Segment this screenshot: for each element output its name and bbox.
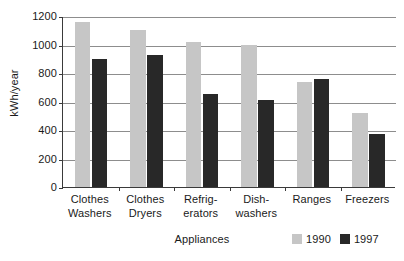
legend-swatch-icon xyxy=(292,234,302,244)
x-axis-tick xyxy=(341,187,342,191)
y-axis-tick-label: 1200 xyxy=(1,10,57,22)
category-label-line: Dish- xyxy=(229,193,285,207)
x-axis-tick xyxy=(174,187,175,191)
gridline xyxy=(63,17,396,18)
y-axis-tick xyxy=(59,46,63,47)
category-label-1: ClothesDryers xyxy=(118,193,174,220)
y-axis-tick-label: 0 xyxy=(1,181,57,193)
category-label-line: Clothes xyxy=(62,193,118,207)
y-axis-tick xyxy=(59,188,63,189)
legend-entry-1990: 1990 xyxy=(292,233,331,245)
gridline xyxy=(63,74,396,75)
y-axis-tick xyxy=(59,17,63,18)
legend-entry-1997: 1997 xyxy=(340,233,379,245)
gridline xyxy=(63,160,396,161)
x-axis-tick xyxy=(230,187,231,191)
y-axis-tick-label: 400 xyxy=(1,124,57,136)
legend-label: 1997 xyxy=(354,233,379,245)
y-axis-tick xyxy=(59,103,63,104)
category-label-line: Washers xyxy=(62,207,118,221)
y-axis-tick xyxy=(59,74,63,75)
bar-chart-figure: kWh/year 020040060080010001200 ClothesWa… xyxy=(0,0,404,261)
bar-1997-5 xyxy=(369,134,385,187)
legend-swatch-icon xyxy=(340,234,350,244)
bar-1990-3 xyxy=(241,45,257,187)
category-label-line: Clothes xyxy=(118,193,174,207)
gridline xyxy=(63,103,396,104)
bar-1990-4 xyxy=(297,82,313,187)
y-axis-tick-label: 600 xyxy=(1,96,57,108)
x-axis-tick xyxy=(285,187,286,191)
y-axis-tick-label: 200 xyxy=(1,153,57,165)
bar-1990-0 xyxy=(75,22,91,187)
bar-1990-2 xyxy=(186,42,202,187)
bar-1997-1 xyxy=(147,55,163,187)
bar-1997-0 xyxy=(92,59,108,187)
bar-1990-5 xyxy=(352,113,368,187)
y-axis-tick-label: 1000 xyxy=(1,39,57,51)
bar-1997-2 xyxy=(203,94,219,187)
category-label-0: ClothesWashers xyxy=(62,193,118,220)
gridline xyxy=(63,131,396,132)
x-axis-tick xyxy=(119,187,120,191)
category-label-4: Ranges xyxy=(284,193,340,207)
bar-1997-4 xyxy=(314,79,330,187)
y-axis-tick xyxy=(59,131,63,132)
category-label-line: Dryers xyxy=(118,207,174,221)
category-label-line: Refrig- xyxy=(173,193,229,207)
bar-1997-3 xyxy=(258,100,274,187)
legend-label: 1990 xyxy=(306,233,331,245)
category-label-5: Freezers xyxy=(340,193,396,207)
plot-area xyxy=(62,17,395,188)
y-axis-tick-label: 800 xyxy=(1,67,57,79)
gridline xyxy=(63,46,396,47)
category-label-line: erators xyxy=(173,207,229,221)
category-label-line: washers xyxy=(229,207,285,221)
bar-1990-1 xyxy=(130,30,146,187)
chart-legend: 19901997 xyxy=(292,233,379,245)
category-label-line: Ranges xyxy=(284,193,340,207)
category-label-2: Refrig-erators xyxy=(173,193,229,220)
category-label-3: Dish-washers xyxy=(229,193,285,220)
category-label-line: Freezers xyxy=(340,193,396,207)
y-axis-tick xyxy=(59,160,63,161)
